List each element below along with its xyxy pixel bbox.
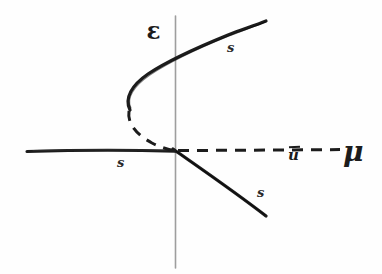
s-label-upper-branch: s: [227, 41, 234, 54]
s-label-left-branch: s: [117, 156, 124, 169]
mu-axis-label: μ: [343, 138, 364, 166]
bifurcation-diagram-figure: ε μ u s s s: [0, 0, 382, 274]
s-label-lower-branch: s: [257, 186, 264, 199]
upper-branch-dashed-curve: [129, 111, 176, 151]
u-unstable-label: u: [288, 148, 298, 163]
lower-branch-solid-line-texture: [176, 151, 265, 215]
horizontal-axis-dashed-right: [178, 150, 340, 151]
diagram-canvas: [0, 0, 382, 274]
epsilon-axis-label: ε: [147, 18, 161, 43]
